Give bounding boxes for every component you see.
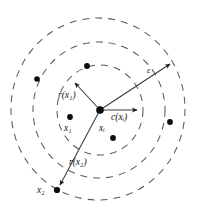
center-point-xi: [97, 107, 103, 113]
point-x1-target: [84, 63, 90, 69]
point-x1: [67, 114, 73, 120]
label-epsilon: ε: [147, 66, 150, 75]
figure-container: r(x₁) r(x₂) ε c(xᵢ) xᵢ x₁ x₂: [0, 0, 203, 208]
point-upper-left: [34, 76, 40, 82]
label-r-x1: r(x₁): [58, 91, 76, 101]
point-inner-lower: [110, 135, 116, 141]
diagram-canvas: [0, 0, 203, 208]
arrow-r-x1: [75, 83, 100, 110]
label-x-2: x₂: [37, 186, 45, 196]
label-c-xi: c(xᵢ): [111, 113, 127, 123]
point-x2: [54, 187, 60, 193]
label-r-x2: r(x₂): [69, 158, 87, 168]
arrow-epsilon: [100, 64, 170, 110]
label-x-i: xᵢ: [99, 124, 105, 134]
arrow-r-x2: [60, 110, 100, 185]
label-x-1: x₁: [64, 124, 72, 134]
point-right-outer: [167, 119, 173, 125]
